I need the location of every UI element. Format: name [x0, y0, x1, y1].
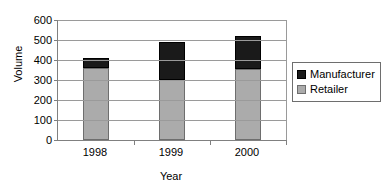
bar-segment-retailer[interactable]: [83, 68, 109, 140]
y-axis-tickmark: [54, 80, 58, 81]
x-axis-tick-label: 2000: [217, 147, 277, 158]
bar-segment-manufacturer[interactable]: [159, 42, 185, 80]
y-axis-tickmark: [54, 60, 58, 61]
x-axis-tick-label: 1999: [141, 147, 201, 158]
y-axis-tickmark: [54, 140, 58, 141]
x-axis-tickmark: [210, 140, 211, 145]
x-axis-tick-label: 1998: [65, 147, 125, 158]
bar-segment-retailer[interactable]: [159, 80, 185, 140]
y-axis-tick-label: 100: [20, 115, 52, 126]
x-axis-tickmark: [286, 140, 287, 145]
y-axis-tickmark: [54, 100, 58, 101]
y-axis-tick-label: 300: [20, 75, 52, 86]
gridline: [58, 20, 286, 21]
x-axis-tickmark: [134, 140, 135, 145]
y-axis-tick-labels: 0100200300400500600: [20, 20, 52, 140]
plot-area: [57, 20, 286, 141]
y-axis-tick-label: 500: [20, 35, 52, 46]
y-axis-tick-label: 400: [20, 55, 52, 66]
y-axis-tickmark: [54, 40, 58, 41]
y-axis-tick-label: 200: [20, 95, 52, 106]
legend-item-retailer[interactable]: Retailer: [297, 82, 375, 97]
x-axis-tick-labels: 199819992000: [57, 147, 285, 161]
chart-legend: Manufacturer Retailer: [292, 62, 381, 102]
gridline: [58, 100, 286, 101]
y-axis-tickmark: [54, 20, 58, 21]
gridline: [58, 40, 286, 41]
legend-label-retailer: Retailer: [310, 84, 348, 95]
gridline: [58, 80, 286, 81]
x-axis-title: Year: [57, 170, 285, 182]
stacked-bar-chart: Volume 0100200300400500600 199819992000 …: [0, 0, 390, 196]
legend-item-manufacturer[interactable]: Manufacturer: [297, 67, 375, 82]
legend-label-manufacturer: Manufacturer: [310, 69, 375, 80]
y-axis-tickmark: [54, 120, 58, 121]
legend-swatch-manufacturer-icon: [297, 70, 306, 79]
y-axis-tick-label: 0: [20, 135, 52, 146]
plot-right-edge: [286, 20, 287, 140]
y-axis-tick-label: 600: [20, 15, 52, 26]
legend-swatch-retailer-icon: [297, 85, 306, 94]
gridline: [58, 60, 286, 61]
gridline: [58, 120, 286, 121]
